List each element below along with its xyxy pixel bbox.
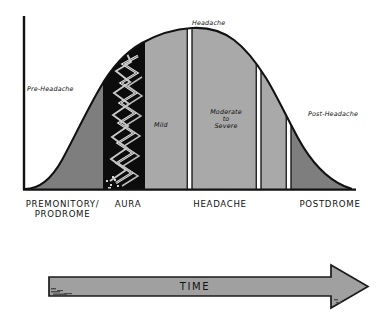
phase-label-aura: AURA [100,200,156,210]
label-pre-headache: Pre-Headache [27,86,74,93]
migraine-phases-diagram: Pre-Headache Headache Mild Moderate to S… [0,0,381,327]
label-post-headache: Post-Headache [308,111,358,118]
headache-band-fill [145,15,291,193]
label-mild: Mild [154,122,168,129]
phase-label-postdrome: POSTDROME [285,200,375,210]
diagram-canvas [0,0,381,327]
label-moderate-to-severe: Moderate to Severe [201,109,251,131]
time-arrow-label: TIME [165,281,225,292]
label-headache-top: Headache [192,20,225,27]
phase-label-headache: HEADACHE [175,200,265,210]
